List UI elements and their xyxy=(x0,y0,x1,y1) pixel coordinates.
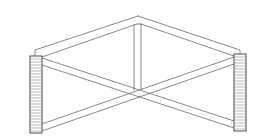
left-post xyxy=(30,56,42,133)
diagonal-brace-2 xyxy=(42,57,234,131)
center-vertical xyxy=(134,24,141,90)
diagonal-brace-1 xyxy=(42,58,234,128)
top-beam-left xyxy=(35,16,138,57)
top-beam-right xyxy=(138,16,240,56)
right-post xyxy=(234,54,246,131)
diagram-canvas xyxy=(0,0,259,139)
